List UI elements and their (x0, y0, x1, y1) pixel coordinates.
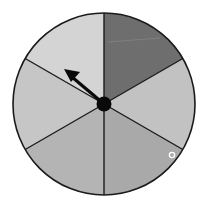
spinner-hub (97, 97, 112, 112)
spinner-diagram (0, 0, 209, 210)
